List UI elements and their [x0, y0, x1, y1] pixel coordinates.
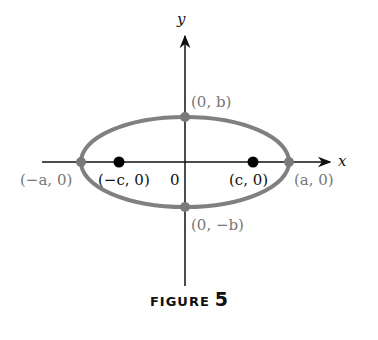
- vertex-left-dot: [76, 157, 86, 167]
- label-top: (0, b): [191, 93, 231, 111]
- covertex-bottom-dot: [180, 202, 190, 212]
- vertex-right-dot: [284, 157, 294, 167]
- covertex-top-dot: [180, 112, 190, 122]
- label-left-vertex: (−a, 0): [20, 171, 72, 189]
- focus-right-dot: [248, 157, 259, 168]
- focus-left-dot: [114, 157, 125, 168]
- label-right-focus: (c, 0): [229, 171, 268, 189]
- x-axis-label: x: [338, 152, 347, 170]
- label-origin: 0: [170, 171, 180, 189]
- y-axis-label: y: [176, 10, 186, 28]
- label-bottom: (0, −b): [191, 216, 244, 234]
- label-left-focus: (−c, 0): [98, 171, 150, 189]
- figure-5: y x (0, b) (0, −b) (−a, 0) (−c, 0) 0 (c,…: [0, 0, 378, 340]
- caption-number: 5: [215, 288, 228, 310]
- figure-caption: FIGURE5: [0, 288, 378, 310]
- label-right-vertex: (a, 0): [294, 171, 334, 189]
- caption-word: FIGURE: [150, 294, 210, 309]
